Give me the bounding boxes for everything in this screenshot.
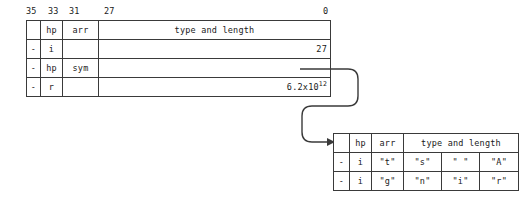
cell-value-exponential: 6.2x1012 — [99, 78, 331, 97]
cell-char: "g" — [372, 172, 404, 191]
cell-sign: - — [27, 78, 41, 97]
cell-value — [99, 59, 331, 78]
cell-type-and-length: type and length — [404, 134, 519, 153]
cell-value: 27 — [99, 40, 331, 59]
bit-label-27: 27 — [104, 6, 115, 16]
cell-arr — [63, 40, 99, 59]
bit-position-ruler: 353331270 — [26, 6, 331, 20]
bit-label-31: 31 — [69, 6, 80, 16]
table-row: - i "g" "n" "i" "r" — [334, 172, 519, 191]
table-row: - i 27 — [27, 40, 331, 59]
cell-hp: hp — [41, 59, 63, 78]
cell-hp: i — [41, 40, 63, 59]
cell-value: type and length — [99, 21, 331, 40]
bit-label-0: 0 — [323, 6, 328, 16]
cell-char: "i" — [442, 172, 480, 191]
cell-hp: i — [350, 153, 372, 172]
cell-sign: - — [27, 59, 41, 78]
table-row: - hp sym — [27, 59, 331, 78]
cell-char: "n" — [404, 172, 442, 191]
cell-arr: arr — [63, 21, 99, 40]
cell-arr: sym — [63, 59, 99, 78]
primary-word-table: hp arr type and length - i 27 - hp sym -… — [26, 20, 331, 97]
table-row: - r 6.2x1012 — [27, 78, 331, 97]
cell-hp: hp — [41, 21, 63, 40]
cell-arr — [63, 78, 99, 97]
string-word-table: hp arr type and length - i "t" "s" " " "… — [333, 133, 519, 191]
table-row: - i "t" "s" " " "A" — [334, 153, 519, 172]
cell-hp: hp — [350, 134, 372, 153]
cell-sign: - — [334, 153, 350, 172]
cell-char: " " — [442, 153, 480, 172]
table-row: hp arr type and length — [334, 134, 519, 153]
bit-label-33: 33 — [48, 6, 59, 16]
cell-char: "A" — [480, 153, 519, 172]
cell-hp: r — [41, 78, 63, 97]
table-row: hp arr type and length — [27, 21, 331, 40]
cell-char: "s" — [404, 153, 442, 172]
cell-sign: - — [334, 172, 350, 191]
cell-sign: - — [27, 40, 41, 59]
cell-hp: i — [350, 172, 372, 191]
bit-label-35: 35 — [26, 6, 37, 16]
cell-char: "t" — [372, 153, 404, 172]
cell-arr: arr — [372, 134, 404, 153]
cell-char: "r" — [480, 172, 519, 191]
cell-sign — [334, 134, 350, 153]
word-format-diagram: 353331270 hp arr type and length - i 27 … — [0, 0, 520, 205]
cell-sign — [27, 21, 41, 40]
